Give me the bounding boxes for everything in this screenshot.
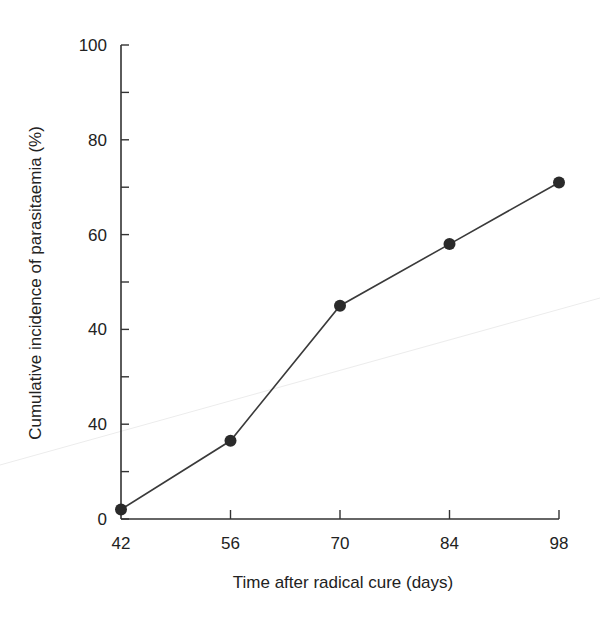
y-axis-title: Cumulative incidence of parasitaemia (%) (26, 126, 45, 440)
x-tick-label: 70 (331, 534, 350, 553)
y-axis: 100806040400 (79, 36, 129, 529)
y-tick-label: 60 (88, 226, 107, 245)
x-axis-title: Time after radical cure (days) (233, 573, 453, 592)
data-point-marker (225, 435, 237, 447)
x-tick-label: 56 (221, 534, 240, 553)
data-series (115, 176, 565, 515)
y-tick-label: 40 (88, 415, 107, 434)
x-axis: 4256708498 (112, 510, 569, 553)
data-point-marker (444, 238, 456, 250)
series-line (121, 182, 559, 509)
line-chart: 100806040400 4256708498 Time after radic… (0, 0, 600, 617)
y-tick-label: 100 (79, 36, 107, 55)
y-tick-label: 0 (98, 510, 107, 529)
y-tick-label: 40 (88, 320, 107, 339)
data-point-marker (553, 176, 565, 188)
x-tick-label: 98 (550, 534, 569, 553)
data-point-marker (115, 504, 127, 516)
data-point-marker (334, 300, 346, 312)
y-tick-label: 80 (88, 131, 107, 150)
x-tick-label: 84 (440, 534, 459, 553)
x-tick-label: 42 (112, 534, 131, 553)
